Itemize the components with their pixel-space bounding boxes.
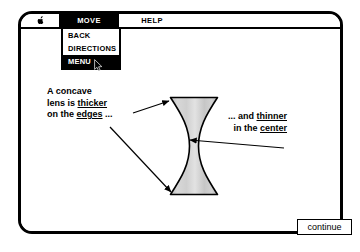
move-dropdown-menu: BACK DIRECTIONS MENU: [61, 29, 121, 70]
caption-right-line1-underlined: thinner: [257, 111, 288, 121]
apple-logo-icon: [36, 16, 45, 26]
caption-left-line3-underlined: edges: [77, 109, 103, 119]
caption-left-line1: A concave: [47, 86, 113, 98]
caption-right-line2-underlined: center: [260, 123, 287, 133]
apple-menu[interactable]: [21, 14, 61, 27]
dropdown-item-directions[interactable]: DIRECTIONS: [63, 42, 119, 55]
caption-left-line3-post: ...: [103, 109, 113, 119]
caption-right-line1-pre: ... and: [228, 111, 257, 121]
caption-right-line2: in the center: [228, 123, 287, 135]
menu-item-help[interactable]: HELP: [119, 14, 185, 27]
caption-left-line3-pre: on the: [47, 109, 77, 119]
caption-left: A concave lens is thicker on the edges .…: [47, 86, 113, 121]
menu-item-move[interactable]: MOVE: [61, 14, 119, 27]
caption-left-line2: lens is thicker: [47, 98, 113, 110]
dropdown-item-menu[interactable]: MENU: [63, 55, 119, 68]
concave-lens-shape: [168, 95, 220, 197]
caption-left-line3: on the edges ...: [47, 109, 113, 121]
caption-right-line2-pre: in the: [234, 123, 261, 133]
caption-left-line2-pre: lens is: [47, 98, 78, 108]
app-screen: MOVE HELP BACK DIRECTIONS MENU: [0, 0, 360, 252]
menu-bar-filler: [185, 14, 340, 27]
caption-right: ... and thinner in the center: [228, 111, 287, 134]
menu-bar: MOVE HELP: [21, 14, 340, 29]
dropdown-item-back[interactable]: BACK: [63, 29, 119, 42]
continue-button[interactable]: continue: [297, 219, 352, 235]
caption-left-line2-underlined: thicker: [78, 98, 108, 108]
caption-right-line1: ... and thinner: [228, 111, 287, 123]
